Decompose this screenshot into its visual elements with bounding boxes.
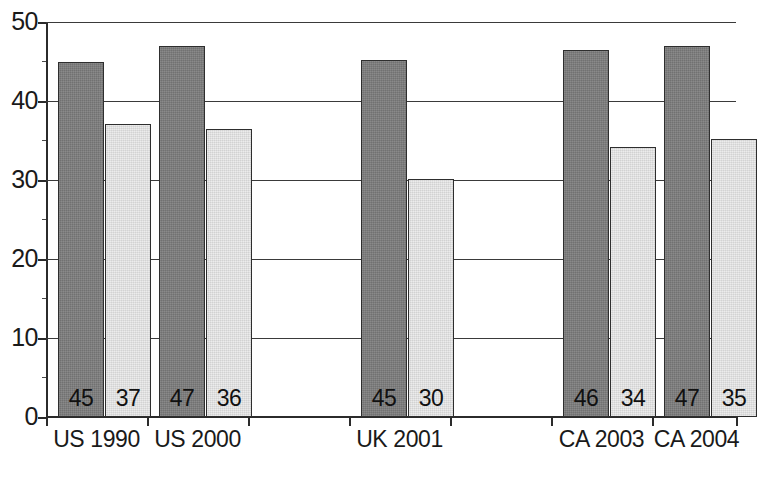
plot-area: 45 37 47 36 45 30 46 34 47 bbox=[46, 22, 736, 417]
bar-us-1990-series-1[interactable]: 45 bbox=[58, 62, 104, 417]
y-axis-tick-label-20: 20 bbox=[0, 246, 38, 271]
bar-value-label: 45 bbox=[59, 387, 103, 410]
x-axis-tick-mark-4 bbox=[450, 417, 452, 426]
bar-ca-2003-series-1[interactable]: 46 bbox=[563, 50, 609, 417]
x-axis-label-ca-2003: CA 2003 bbox=[551, 428, 652, 451]
bar-uk-2001-series-2[interactable]: 30 bbox=[408, 179, 454, 417]
bar-uk-2001-series-1[interactable]: 45 bbox=[361, 60, 407, 417]
x-axis-tick-mark-3 bbox=[349, 417, 351, 426]
x-axis-tick-mark-1 bbox=[147, 417, 149, 426]
bar-value-label: 36 bbox=[207, 387, 251, 410]
bar-value-label: 30 bbox=[409, 387, 453, 410]
x-axis-label-us-2000: US 2000 bbox=[147, 428, 248, 451]
bar-us-2000-series-2[interactable]: 36 bbox=[206, 129, 252, 417]
x-axis-label-us-1990: US 1990 bbox=[46, 428, 147, 451]
bar-value-label: 45 bbox=[362, 387, 406, 410]
y-axis-tick-label-10: 10 bbox=[0, 325, 38, 350]
bar-ca-2003-series-2[interactable]: 34 bbox=[610, 147, 656, 417]
x-axis-tick-mark-2 bbox=[248, 417, 250, 426]
bar-value-label: 47 bbox=[160, 387, 204, 410]
x-axis-tick-mark-7 bbox=[736, 417, 738, 426]
bar-ca-2004-series-2[interactable]: 35 bbox=[711, 139, 757, 417]
bar-value-label: 37 bbox=[106, 387, 150, 410]
gridline-50 bbox=[46, 22, 736, 23]
bar-ca-2004-series-1[interactable]: 47 bbox=[664, 46, 710, 417]
x-axis-label-uk-2001: UK 2001 bbox=[349, 428, 450, 451]
y-axis-tick-label-30: 30 bbox=[0, 167, 38, 192]
y-axis-tick-label-40: 40 bbox=[0, 88, 38, 113]
y-axis-tick-label-50: 50 bbox=[0, 9, 38, 34]
x-axis-tick-mark-6 bbox=[652, 417, 654, 426]
bar-value-label: 47 bbox=[665, 387, 709, 410]
x-axis-tick-mark-5 bbox=[551, 417, 553, 426]
bar-value-label: 35 bbox=[712, 387, 756, 410]
bar-value-label: 46 bbox=[564, 387, 608, 410]
x-axis-label-ca-2004: CA 2004 bbox=[646, 428, 747, 451]
bar-group-empty-2 bbox=[459, 416, 552, 417]
bar-us-1990-series-2[interactable]: 37 bbox=[105, 124, 151, 417]
y-axis-tick-label-0: 0 bbox=[0, 404, 38, 429]
bar-value-label: 34 bbox=[611, 387, 655, 410]
x-axis-tick-mark-0 bbox=[46, 417, 48, 426]
bar-us-2000-series-1[interactable]: 47 bbox=[159, 46, 205, 417]
bar-group-empty-1 bbox=[257, 416, 350, 417]
